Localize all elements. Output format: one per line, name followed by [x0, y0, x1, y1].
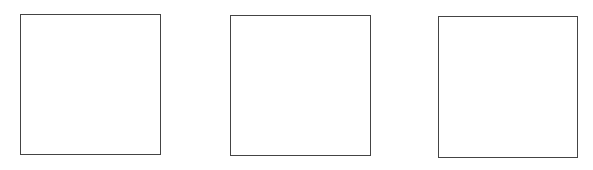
empty-square-1 — [20, 14, 161, 155]
empty-square-3 — [438, 16, 578, 158]
empty-square-2 — [230, 15, 371, 156]
